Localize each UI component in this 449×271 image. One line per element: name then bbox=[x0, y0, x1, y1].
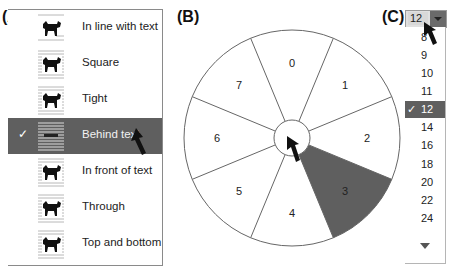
font-size-option-12[interactable]: ✓12 bbox=[405, 101, 445, 118]
font-size-option-8[interactable]: 8 bbox=[405, 29, 445, 46]
font-size-option-label: 22 bbox=[421, 192, 433, 209]
menu-item-in-front-of-text[interactable]: In front of text bbox=[8, 154, 162, 190]
font-size-option-label: 10 bbox=[421, 65, 433, 82]
font-size-option-label: 9 bbox=[421, 47, 427, 64]
font-size-option-16[interactable]: 16 bbox=[405, 137, 445, 154]
menu-item-behind-text[interactable]: ✓Behind text bbox=[8, 118, 162, 154]
pie-segment-5[interactable]: 5 bbox=[236, 185, 242, 197]
wrap-inline-icon bbox=[36, 13, 66, 43]
font-size-option-label: 16 bbox=[421, 137, 433, 154]
pie-segment-1[interactable]: 1 bbox=[342, 79, 348, 91]
font-size-option-label: 8 bbox=[421, 29, 427, 46]
pie-center[interactable] bbox=[274, 120, 310, 156]
menu-item-in-line-with-text[interactable]: In line with text bbox=[8, 10, 162, 46]
font-size-option-24[interactable]: 24 bbox=[405, 210, 445, 227]
font-size-option-10[interactable]: 10 bbox=[405, 65, 445, 82]
font-size-option-label: 24 bbox=[421, 210, 433, 227]
menu-item-through[interactable]: Through bbox=[8, 190, 162, 226]
font-size-option-20[interactable]: 20 bbox=[405, 174, 445, 191]
pie-segment-6[interactable]: 6 bbox=[214, 132, 220, 144]
font-size-combobox[interactable]: 12 bbox=[405, 10, 447, 28]
pie-segment-3[interactable]: 3 bbox=[342, 185, 348, 197]
scroll-down-icon[interactable] bbox=[420, 243, 430, 249]
menu-item-square[interactable]: Square bbox=[8, 46, 162, 82]
menu-item-label: Top and bottom bbox=[82, 236, 161, 248]
menu-item-top-and-bottom[interactable]: Top and bottom bbox=[8, 226, 162, 262]
chevron-down-icon bbox=[434, 17, 442, 21]
pie-segment-7[interactable]: 7 bbox=[236, 79, 242, 91]
font-size-list: 891011✓12141618202224 bbox=[405, 27, 446, 264]
font-size-option-14[interactable]: 14 bbox=[405, 119, 445, 136]
check-icon: ✓ bbox=[407, 101, 416, 118]
check-icon: ✓ bbox=[18, 127, 28, 141]
menu-item-label: Square bbox=[82, 56, 119, 68]
wrap-behind-icon bbox=[36, 121, 66, 151]
menu-item-label: Through bbox=[82, 200, 125, 212]
wrap-tight-icon bbox=[36, 85, 66, 115]
font-size-value[interactable]: 12 bbox=[408, 12, 428, 25]
font-size-dropdown-button[interactable] bbox=[430, 11, 446, 27]
text-wrap-menu: In line with textSquareTight✓Behind text… bbox=[8, 9, 163, 266]
font-size-option-label: 20 bbox=[421, 174, 433, 191]
menu-item-label: Behind text bbox=[82, 128, 140, 140]
font-size-option-label: 12 bbox=[421, 101, 433, 118]
font-size-option-22[interactable]: 22 bbox=[405, 192, 445, 209]
font-size-option-11[interactable]: 11 bbox=[405, 83, 445, 100]
pie-menu: 01234567 bbox=[182, 24, 402, 254]
menu-item-label: In line with text bbox=[82, 20, 158, 32]
menu-item-label: Tight bbox=[82, 92, 107, 104]
menu-item-label: In front of text bbox=[82, 164, 152, 176]
font-size-option-label: 14 bbox=[421, 119, 433, 136]
font-size-option-9[interactable]: 9 bbox=[405, 47, 445, 64]
font-size-option-label: 18 bbox=[421, 156, 433, 173]
pie-segment-4[interactable]: 4 bbox=[289, 207, 295, 219]
wrap-through-icon bbox=[36, 193, 66, 223]
menu-item-tight[interactable]: Tight bbox=[8, 82, 162, 118]
pie-segment-2[interactable]: 2 bbox=[364, 132, 370, 144]
wrap-topbottom-icon bbox=[36, 229, 66, 259]
font-size-option-label: 11 bbox=[421, 83, 432, 100]
font-size-option-18[interactable]: 18 bbox=[405, 156, 445, 173]
pie-segment-0[interactable]: 0 bbox=[289, 57, 295, 69]
wrap-square-icon bbox=[36, 49, 66, 79]
wrap-infront-icon bbox=[36, 157, 66, 187]
